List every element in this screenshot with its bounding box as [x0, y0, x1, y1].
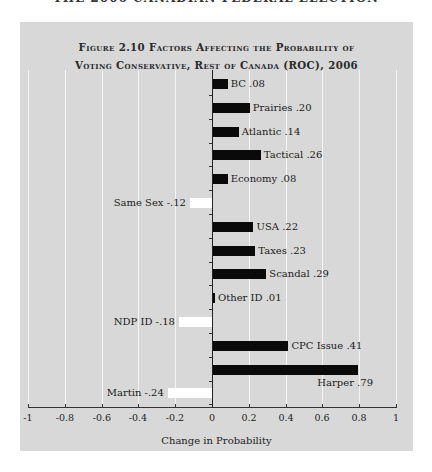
y-tick: [209, 166, 212, 167]
gridline: [396, 70, 397, 407]
chart-title-line-1: Figure 2.10 Factors Affecting the Probab…: [20, 38, 413, 56]
x-tick-label: 0.4: [271, 412, 301, 423]
gridline: [175, 70, 176, 407]
x-tick-label: 1: [381, 412, 411, 423]
bar-cpc-issue: [213, 341, 288, 351]
bar-label: Tactical .26: [264, 149, 323, 161]
x-tick-label: 0.8: [344, 412, 374, 423]
y-tick: [209, 95, 212, 96]
x-tick-label: -0.2: [160, 412, 190, 423]
running-head: THE 2006 CANADIAN FEDERAL ELECTION: [0, 0, 432, 5]
x-tick-label: -0.8: [50, 412, 80, 423]
y-tick: [209, 381, 212, 382]
bar-label: USA .22: [256, 221, 298, 233]
x-axis-line: [29, 407, 397, 408]
chart-title-line-2: Voting Conservative, Rest of Canada (ROC…: [20, 56, 413, 74]
bar-label: Scandal .29: [269, 268, 329, 280]
y-tick: [209, 238, 212, 239]
bar-label: Economy .08: [231, 173, 297, 185]
bar-label: BC .08: [231, 78, 265, 90]
y-tick: [209, 143, 212, 144]
x-tick-label: -0.4: [123, 412, 153, 423]
y-tick: [209, 404, 212, 405]
y-tick: [209, 333, 212, 334]
x-tick-label: -0.6: [87, 412, 117, 423]
gridline: [102, 70, 103, 407]
bar-economy: [213, 174, 228, 184]
x-axis-label: Change in Probability: [20, 435, 413, 446]
y-tick: [209, 214, 212, 215]
gridline: [65, 70, 66, 407]
gridline: [249, 70, 250, 407]
y-tick: [209, 285, 212, 286]
bar-tactical: [213, 150, 261, 160]
gridline: [28, 70, 29, 407]
x-tick-label: 0.2: [234, 412, 264, 423]
bar-prairies: [213, 103, 250, 113]
x-tick-label: -1: [13, 412, 43, 423]
chart-title: Figure 2.10 Factors Affecting the Probab…: [20, 38, 413, 74]
bar-usa: [213, 222, 253, 232]
gridline: [359, 70, 360, 407]
chart-panel: Figure 2.10 Factors Affecting the Probab…: [20, 22, 413, 451]
bar-label: Other ID .01: [218, 292, 282, 304]
bar-atlantic: [213, 127, 239, 137]
bar-label: NDP ID -.18: [114, 316, 175, 328]
bar-taxes: [213, 246, 255, 256]
bar-label: CPC Issue .41: [291, 340, 362, 352]
zero-axis-line: [212, 70, 213, 408]
bar-martin: [168, 388, 212, 398]
bar-harper: [213, 365, 358, 375]
bar-bc: [213, 79, 228, 89]
x-tick-label: 0: [197, 412, 227, 423]
bar-label: Same Sex -.12: [114, 197, 186, 209]
bar-label: Taxes .23: [258, 245, 306, 257]
bar-label: Martin -.24: [107, 387, 164, 399]
gridline: [138, 70, 139, 407]
bar-other-id: [213, 293, 215, 303]
gridline: [286, 70, 287, 407]
y-tick: [209, 309, 212, 310]
bar-ndp-id: [179, 317, 212, 327]
bar-label: Harper .79: [317, 377, 373, 389]
bar-label: Atlantic .14: [242, 126, 301, 138]
y-tick: [209, 262, 212, 263]
bar-label: Prairies .20: [253, 102, 312, 114]
bar-scandal: [213, 269, 266, 279]
y-tick: [209, 190, 212, 191]
bar-same-sex: [190, 198, 212, 208]
y-tick: [209, 119, 212, 120]
x-tick-label: 0.6: [307, 412, 337, 423]
y-tick: [209, 357, 212, 358]
gridline: [322, 70, 323, 407]
